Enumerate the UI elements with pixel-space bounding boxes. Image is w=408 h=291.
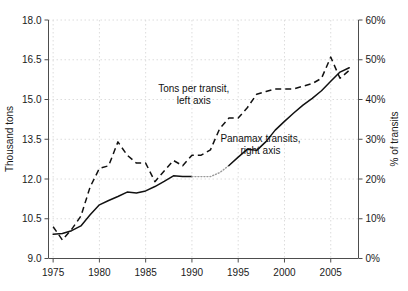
right-axis-tick-label: 0% [366, 253, 381, 264]
x-axis-tick-label: 1995 [227, 267, 250, 278]
left-axis-tick-label: 16.5 [22, 54, 42, 65]
right-axis-tick-label: 60% [366, 15, 386, 26]
left-axis-tick-label: 12.0 [22, 174, 42, 185]
right-axis-tick-label: 30% [366, 134, 386, 145]
left-axis-title: Thousand tons [4, 106, 15, 172]
x-axis-tick-label: 2005 [320, 267, 343, 278]
right-axis-tick-label: 40% [366, 94, 386, 105]
right-axis-tick-label: 10% [366, 213, 386, 224]
chart-container: 9.010.512.013.515.016.518.0 0%10%20%30%4… [0, 0, 408, 291]
right-axis-title: % of transits [389, 111, 400, 166]
left-axis-tick-label: 13.5 [22, 134, 42, 145]
x-axis-tick-label: 1980 [88, 267, 111, 278]
left-axis-tick-label: 18.0 [22, 15, 42, 26]
left-axis-tick-label: 15.0 [22, 94, 42, 105]
x-axis-tick-label: 1985 [135, 267, 158, 278]
x-axis-tick-label: 1990 [181, 267, 204, 278]
x-axis-tick-label: 2000 [273, 267, 296, 278]
x-axis-tick-label: 1975 [42, 267, 65, 278]
panama-canal-line-chart: 9.010.512.013.515.016.518.0 0%10%20%30%4… [0, 0, 408, 291]
left-axis-tick-label: 10.5 [22, 213, 42, 224]
left-axis-tick-label: 9.0 [28, 253, 42, 264]
chart-background [0, 0, 408, 291]
right-axis-tick-label: 50% [366, 54, 386, 65]
right-axis-tick-label: 20% [366, 174, 386, 185]
